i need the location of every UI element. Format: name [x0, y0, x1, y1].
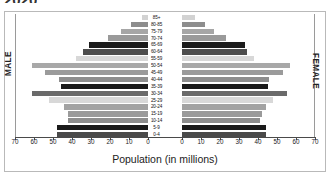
male-bar: [61, 84, 148, 89]
female-bar: [182, 77, 269, 82]
chart-year-heading: 2020: [4, 0, 37, 3]
male-bar: [108, 35, 148, 40]
male-bar: [68, 111, 148, 116]
male-bar: [59, 77, 148, 82]
pyramid-row: 85+: [15, 14, 315, 21]
pyramid-row: 20-24: [15, 104, 315, 111]
pyramid-row: 75-79: [15, 28, 315, 35]
female-bar: [182, 118, 260, 123]
pyramid-row: 45-49: [15, 69, 315, 76]
male-bar: [49, 97, 148, 102]
female-bar: [182, 91, 287, 96]
male-bar: [83, 49, 148, 54]
pyramid-row: 55-59: [15, 55, 315, 62]
male-bar: [121, 29, 148, 34]
x-tick-label: 30: [87, 138, 94, 145]
female-bar: [182, 22, 205, 27]
male-bar: [32, 91, 148, 96]
x-tick-label: 60: [292, 138, 299, 145]
female-bar: [182, 49, 247, 54]
pyramid-row: 10-14: [15, 117, 315, 124]
female-bar: [182, 35, 226, 40]
male-bar: [89, 42, 148, 47]
x-tick-label: 20: [106, 138, 113, 145]
x-tick-label: 20: [216, 138, 223, 145]
pyramid-row: 60-64: [15, 48, 315, 55]
plot-area: 85+80-8575-7970-7465-6960-6455-5950-5445…: [15, 14, 315, 138]
female-bar: [182, 97, 273, 102]
x-tick-label: 70: [311, 138, 318, 145]
female-bar: [182, 84, 268, 89]
pyramid-row: 15-19: [15, 110, 315, 117]
x-axis-tick-labels: 706050403020100010203040506070: [0, 138, 330, 150]
x-tick-label: 40: [68, 138, 75, 145]
female-bar: [182, 111, 262, 116]
female-bar: [182, 70, 283, 75]
male-bar: [32, 63, 148, 68]
x-tick-label: 40: [254, 138, 261, 145]
pyramid-row: 50-54: [15, 62, 315, 69]
female-bar: [182, 56, 254, 61]
female-bar: [182, 63, 290, 68]
x-tick-label: 10: [125, 138, 132, 145]
x-tick-label: 0: [146, 138, 150, 145]
x-tick-label: 50: [273, 138, 280, 145]
x-axis-title: Population (in millions): [0, 153, 330, 165]
pyramid-row: 80-85: [15, 21, 315, 28]
male-side-label: MALE: [4, 51, 13, 76]
female-bar: [182, 29, 214, 34]
female-bar: [182, 42, 245, 47]
pyramid-row: 40-44: [15, 76, 315, 83]
female-bar: [182, 104, 266, 109]
male-bar: [64, 104, 148, 109]
male-bar: [57, 125, 148, 130]
male-bar: [45, 70, 148, 75]
male-bar: [68, 118, 148, 123]
pyramid-row: 70-74: [15, 35, 315, 42]
population-pyramid-figure: 2020 85+80-8575-7970-7465-6960-6455-5950…: [0, 0, 330, 175]
pyramid-row: 30-34: [15, 90, 315, 97]
female-bar: [182, 125, 266, 130]
x-tick-label: 70: [11, 138, 18, 145]
female-side-label: FEMALE: [311, 53, 320, 89]
x-tick-label: 30: [235, 138, 242, 145]
x-tick-label: 60: [30, 138, 37, 145]
female-bar: [182, 15, 195, 20]
male-bar: [131, 22, 148, 27]
male-bar: [76, 56, 148, 61]
pyramid-row: 25-29: [15, 97, 315, 104]
pyramid-row: 5-9: [15, 124, 315, 131]
pyramid-row: 65-69: [15, 42, 315, 49]
x-tick-label: 10: [197, 138, 204, 145]
x-tick-label: 0: [180, 138, 184, 145]
x-tick-label: 50: [49, 138, 56, 145]
pyramid-row: 35-39: [15, 83, 315, 90]
